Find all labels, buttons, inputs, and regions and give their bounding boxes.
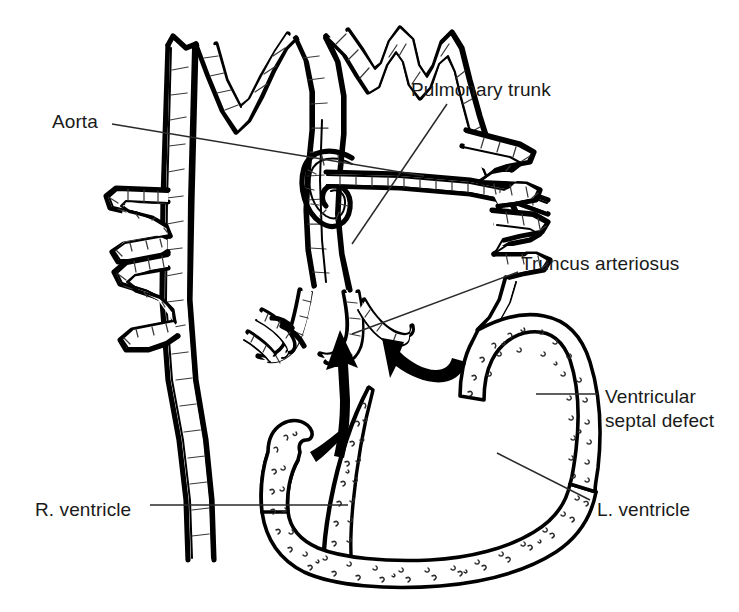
aorta-ascending-vessel xyxy=(162,44,214,560)
label-ventricular-septal-defect-line2: septal defect xyxy=(605,409,714,433)
left-ventricle-wall xyxy=(460,315,600,492)
anatomy-figure: Aorta Pulmonary trunk Truncus arteriosus… xyxy=(0,0,739,612)
arrow-left-ventricle-shunt xyxy=(382,338,466,382)
flow-arrows xyxy=(310,330,466,462)
pulmonary-branches-right xyxy=(462,130,550,335)
label-l-ventricle: L. ventricle xyxy=(597,498,690,522)
label-aorta: Aorta xyxy=(52,110,98,134)
label-ventricular-septal-defect-line1: Ventricular xyxy=(605,385,696,409)
leader-aorta xyxy=(112,124,424,176)
label-truncus-arteriosus: Truncus arteriosus xyxy=(521,252,679,276)
right-ventricle-wall xyxy=(261,421,596,588)
label-r-ventricle: R. ventricle xyxy=(35,498,131,522)
label-pulmonary-trunk: Pulmonary trunk xyxy=(411,78,551,102)
